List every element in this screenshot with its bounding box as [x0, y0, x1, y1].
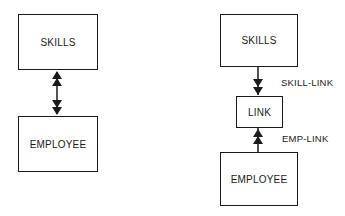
emp-link-label: EMP-LINK — [282, 133, 328, 144]
arrowhead-down-icon — [253, 79, 263, 87]
entity-label: SKILLS — [40, 37, 75, 48]
entity-label: EMPLOYEE — [231, 174, 288, 185]
entity-label: SKILLS — [241, 35, 276, 46]
skills-entity-box-right: SKILLS — [220, 14, 298, 67]
entity-label: LINK — [248, 107, 271, 118]
employee-entity-box-right: EMPLOYEE — [220, 152, 298, 206]
arrowhead-up-icon — [253, 136, 263, 144]
arrowhead-down-icon — [52, 107, 62, 115]
arrowhead-up-icon — [52, 78, 62, 86]
link-entity-box: LINK — [236, 96, 283, 128]
employee-entity-box-left: EMPLOYEE — [18, 116, 98, 172]
skills-entity-box-left: SKILLS — [18, 14, 98, 70]
skill-link-label: SKILL-LINK — [281, 77, 333, 88]
arrowhead-up-icon — [253, 129, 263, 137]
arrowhead-down-icon — [52, 100, 62, 108]
arrowhead-up-icon — [52, 71, 62, 79]
entity-label: EMPLOYEE — [30, 139, 87, 150]
arrowhead-down-icon — [253, 87, 263, 95]
